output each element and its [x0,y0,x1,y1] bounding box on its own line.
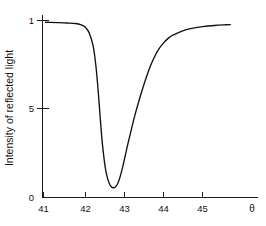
y-tick-label-0: 0 [29,192,34,203]
axes-group [42,15,258,198]
x-tick-label-43: 43 [119,203,130,214]
x-tick-label-42: 42 [80,203,91,214]
x-tick-label-41: 41 [38,203,49,214]
y-tick-label-0-5: 5 [29,103,34,114]
x-axis-title: θ [249,203,255,214]
x-tick-label-44: 44 [158,203,169,214]
chart-figure: 1 5 0 41 42 43 44 45 θ Intensity of refl… [0,0,266,226]
x-tick-marks [44,192,203,198]
reflectivity-line-chart: 1 5 0 41 42 43 44 45 θ Intensity of refl… [0,0,266,226]
y-axis-title: Intensity of reflected light [3,50,15,166]
y-tick-label-1: 1 [29,15,34,26]
x-tick-label-45: 45 [197,203,208,214]
reflectivity-curve [45,22,230,188]
